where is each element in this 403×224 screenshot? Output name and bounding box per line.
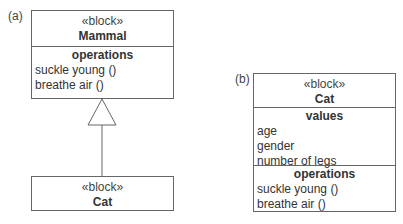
- cat-b-value-item: age: [254, 124, 395, 139]
- cat-b-name: Cat: [254, 92, 395, 107]
- cat-b-operations-compartment: operations suckle young () breathe air (…: [254, 165, 395, 212]
- cat-b-header: «block» Cat: [254, 74, 395, 107]
- cat-a-header: «block» Cat: [32, 177, 173, 210]
- cat-block-b: «block» Cat values age gender number of …: [253, 73, 396, 212]
- cat-a-stereotype: «block»: [32, 180, 173, 195]
- cat-b-values-title: values: [254, 108, 395, 124]
- generalization-triangle-icon: [88, 99, 116, 125]
- cat-block-a: «block» Cat: [31, 176, 174, 211]
- cat-b-operation-item: breathe air (): [254, 197, 395, 212]
- cat-b-value-item: gender: [254, 139, 395, 154]
- cat-b-operation-item: suckle young (): [254, 182, 395, 197]
- cat-b-values-compartment: values age gender number of legs: [254, 107, 395, 165]
- cat-b-stereotype: «block»: [254, 77, 395, 92]
- panel-b-label: (b): [235, 72, 250, 86]
- cat-a-name: Cat: [32, 195, 173, 210]
